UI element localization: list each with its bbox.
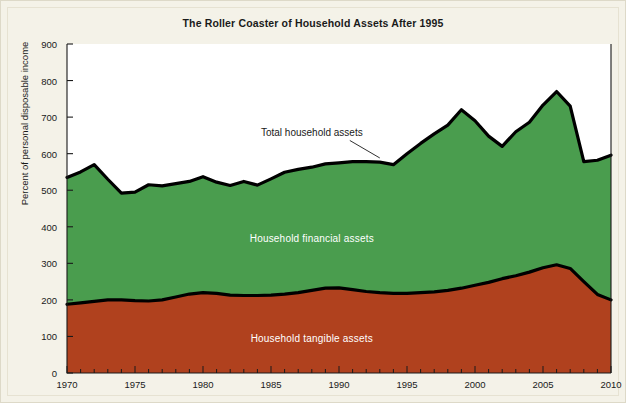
area-label-household-financial-assets: Household financial assets (250, 232, 374, 243)
area-label-household-tangible-assets: Household tangible assets (251, 333, 373, 344)
annotation-total-household-assets: Total household assets (261, 127, 363, 138)
chart-figure: The Roller Coaster of Household Assets A… (0, 0, 626, 403)
